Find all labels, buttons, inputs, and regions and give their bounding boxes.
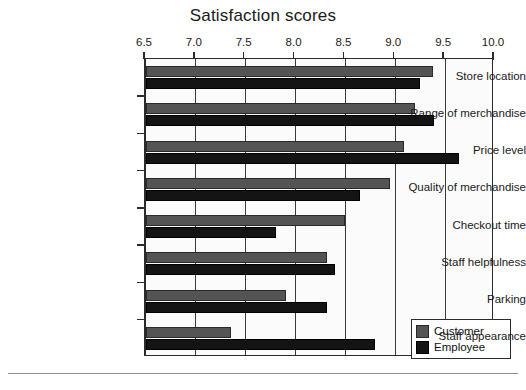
x-tick-mark [243,52,245,59]
bar-customer [146,252,327,263]
bar-customer [146,178,390,189]
y-tick-mark [137,244,146,246]
y-tick-mark [137,95,146,97]
x-tick-label: 10.0 [482,36,504,48]
category-label: Price level [390,144,526,156]
bar-customer [146,141,404,152]
y-tick-mark [137,133,146,135]
x-tick-mark [143,52,145,59]
category-label: Parking [390,293,526,305]
category-label: Staff appearance [390,330,526,342]
bottom-divider [8,373,518,374]
x-tick-label: 6.5 [136,36,152,48]
bar-employee [146,339,375,350]
bar-customer [146,290,286,301]
x-tick-label: 9.5 [435,36,451,48]
x-tick-label: 7.5 [236,36,252,48]
x-tick-label: 8.0 [286,36,302,48]
x-tick-mark [393,52,395,59]
bar-employee [146,302,327,313]
x-tick-mark [193,52,195,59]
bar-employee [146,227,276,238]
category-label: Staff helpfulness [390,256,526,268]
y-tick-mark [137,282,146,284]
gridline [445,59,446,355]
satisfaction-scores-chart: Satisfaction scores 6.57.07.58.08.59.09.… [0,0,526,390]
legend-label-employee: Employee [434,341,485,354]
category-label: Store location [390,70,526,82]
x-tick-label: 7.0 [186,36,202,48]
x-tick-mark [343,52,345,59]
x-tick-mark [492,52,494,59]
category-label: Checkout time [390,219,526,231]
x-tick-label: 8.5 [335,36,351,48]
y-tick-mark [137,319,146,321]
x-tick-label: 9.0 [385,36,401,48]
x-axis-tick-labels: 6.57.07.58.08.59.09.510.0 [0,36,526,52]
chart-title: Satisfaction scores [0,6,526,26]
bar-employee [146,78,420,89]
y-tick-mark [137,170,146,172]
category-label: Range of merchandise [390,107,526,119]
x-tick-mark [442,52,444,59]
bar-employee [146,190,360,201]
bar-customer [146,327,231,338]
y-tick-mark [137,207,146,209]
legend-swatch-employee [416,341,429,354]
bar-employee [146,264,335,275]
x-tick-mark [293,52,295,59]
bar-customer [146,103,415,114]
category-label: Quality of merchandise [390,181,526,193]
bar-customer [146,215,345,226]
plot-area [144,58,493,356]
